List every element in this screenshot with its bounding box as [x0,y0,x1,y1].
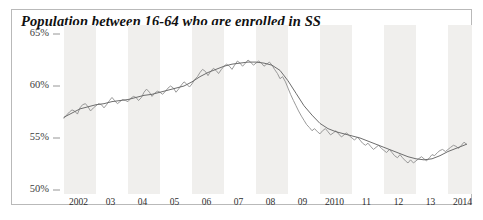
shaded-band [192,25,224,194]
shaded-bands-group [64,25,472,194]
y-axis-ticks-group [53,34,60,190]
x-axis-tick-label: 12 [394,197,404,207]
chart-plot-area [11,9,472,205]
x-axis-tick-label: 07 [234,197,244,207]
x-axis-tick-label: 13 [426,197,436,207]
chart-figure: Population between 16-64 who are enrolle… [0,0,483,220]
x-axis-tick-label: 08 [266,197,276,207]
x-axis-tick-label: 11 [362,197,371,207]
y-axis-tick-label: 65% [15,27,49,38]
x-axis-tick-label: 06 [202,197,212,207]
x-axis-tick-label: 09 [298,197,308,207]
shaded-band [448,25,472,194]
shaded-band [320,25,352,194]
x-axis-tick-label: 05 [170,197,180,207]
x-axis-tick-label: 2010 [325,197,344,207]
x-axis-tick-label: 03 [106,197,116,207]
shaded-band [256,25,288,194]
y-axis-tick-label: 60% [15,79,49,90]
y-axis-tick-label: 50% [15,183,49,194]
shaded-band [384,25,416,194]
x-axis-tick-label: 04 [138,197,148,207]
x-axis-tick-label: 2002 [69,197,88,207]
y-axis-tick-label: 55% [15,131,49,142]
x-axis-tick-label: 2014 [453,197,472,207]
shaded-band [128,25,160,194]
shaded-band [64,25,96,194]
